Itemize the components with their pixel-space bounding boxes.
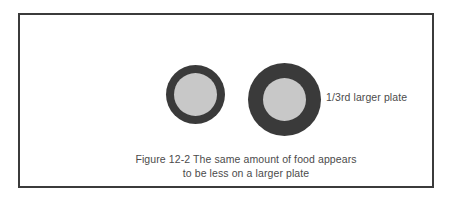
figure-caption-line-2: to be less on a larger plate bbox=[39, 166, 453, 180]
figure-caption: Figure 12-2 The same amount of food appe… bbox=[39, 152, 453, 180]
large-plate bbox=[248, 63, 321, 136]
small-plate bbox=[166, 65, 225, 124]
small-plate-food bbox=[174, 73, 217, 116]
figure-frame-border: 1/3rd larger plate Figure 12-2 The same … bbox=[18, 13, 434, 188]
large-plate-food bbox=[263, 78, 306, 121]
large-plate-annotation-label: 1/3rd larger plate bbox=[326, 91, 407, 104]
figure-root: 1/3rd larger plate Figure 12-2 The same … bbox=[0, 0, 456, 202]
figure-caption-line-1: Figure 12-2 The same amount of food appe… bbox=[39, 152, 453, 166]
